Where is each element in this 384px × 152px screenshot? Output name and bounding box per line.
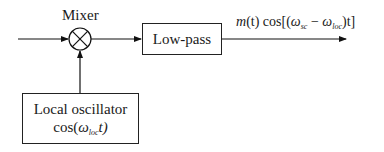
output-omega-sc: ω [291, 14, 301, 29]
oscillator-function: cos(ωloct) [23, 118, 138, 136]
output-m: m [236, 14, 246, 29]
output-signal-label: m(t) cos[(ωsc − ωloc)t] [236, 14, 355, 30]
mixer-icon [69, 28, 91, 50]
lowpass-label: Low-pass [143, 24, 221, 54]
osc-cos: cos( [53, 119, 78, 135]
output-sub-loc: loc [332, 22, 342, 31]
mixer-label: Mixer [62, 7, 99, 23]
output-mt: (t) cos[( [246, 14, 291, 29]
lowpass-block: Low-pass [142, 23, 222, 55]
osc-sub-loc: loc [89, 128, 99, 137]
osc-omega: ω [78, 119, 89, 135]
oscillator-block: Local oscillator cos(ωloct) [22, 93, 139, 144]
output-omega-loc: ω [322, 14, 332, 29]
oscillator-label: Local oscillator [23, 100, 138, 118]
osc-t: t) [99, 119, 108, 135]
output-end: )t] [342, 14, 355, 29]
output-minus: − [307, 14, 322, 29]
